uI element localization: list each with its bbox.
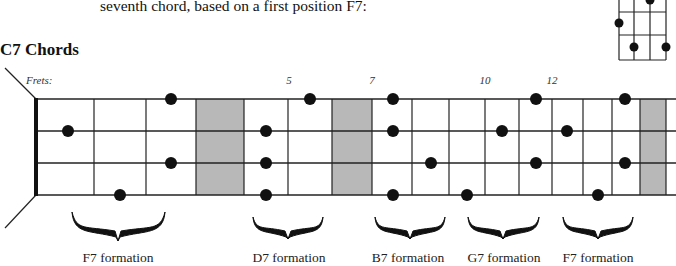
headstock-line-bottom <box>5 195 36 228</box>
note-dot <box>530 93 542 105</box>
formation-brace <box>563 217 633 239</box>
mini-note-dot <box>630 43 639 52</box>
formation-brace <box>253 217 323 239</box>
note-dot <box>561 125 573 137</box>
nut <box>34 98 38 196</box>
note-dot <box>496 125 508 137</box>
mini-note-dot <box>615 19 624 28</box>
fret-marker: 10 <box>480 74 492 86</box>
fret-marker: 5 <box>286 74 292 86</box>
note-dot <box>260 189 272 201</box>
shaded-fret <box>332 99 372 195</box>
note-dot <box>62 125 74 137</box>
mini-note-dot <box>646 0 655 5</box>
note-dot <box>260 125 272 137</box>
note-dot <box>619 93 631 105</box>
fret-lines <box>94 99 666 195</box>
formation-label: B7 formation <box>372 250 445 265</box>
formation-brace <box>375 217 445 239</box>
note-dot <box>165 157 177 169</box>
mini-chord-diagram <box>615 0 671 60</box>
fret-marker: 7 <box>369 74 375 86</box>
formation-label: F7 formation <box>563 250 634 265</box>
shaded-frets <box>196 99 666 195</box>
fret-markers: 571012 <box>286 74 558 86</box>
note-dot <box>425 157 437 169</box>
formation-brace <box>468 217 539 239</box>
note-dot <box>387 93 399 105</box>
formation-brace <box>72 212 165 241</box>
note-dot <box>114 189 126 201</box>
note-dot <box>619 157 631 169</box>
formation-label: G7 formation <box>467 250 540 265</box>
formation-braces: F7 formationD7 formationB7 formationG7 f… <box>72 212 634 265</box>
note-dot <box>387 125 399 137</box>
shaded-fret <box>640 99 666 195</box>
note-dot <box>304 93 316 105</box>
formation-label: D7 formation <box>252 250 325 265</box>
fretboard-diagram: Frets: 571012 F7 formationD7 formationB7… <box>0 0 676 266</box>
frets-label: Frets: <box>25 74 52 86</box>
note-dot <box>530 157 542 169</box>
fret-marker: 12 <box>547 74 559 86</box>
mini-note-dot <box>662 43 671 52</box>
note-dot <box>592 189 604 201</box>
note-dot <box>461 189 473 201</box>
shaded-fret <box>196 99 244 195</box>
note-dot <box>260 157 272 169</box>
formation-label: F7 formation <box>83 250 154 265</box>
note-dot <box>387 189 399 201</box>
note-dot <box>165 93 177 105</box>
